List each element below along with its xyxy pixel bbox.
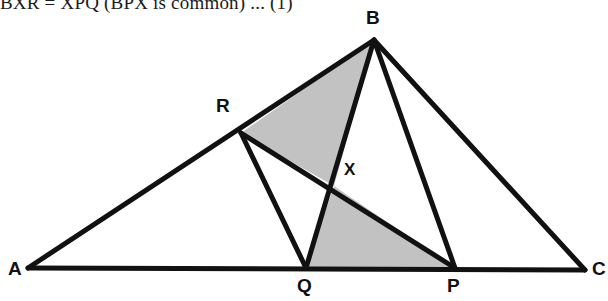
- vertex-label-b: B: [366, 8, 380, 27]
- vertex-label-r: R: [216, 96, 230, 115]
- geometry-figure: [0, 0, 608, 301]
- vertex-label-a: A: [8, 259, 22, 278]
- vertex-label-p: P: [447, 276, 460, 295]
- vertex-label-q: Q: [297, 276, 312, 295]
- diagram-page: BXR = XPQ (BPX is common) ... (1) A B C …: [0, 0, 608, 301]
- vertex-label-c: C: [592, 259, 606, 278]
- vertex-label-x: X: [344, 160, 355, 179]
